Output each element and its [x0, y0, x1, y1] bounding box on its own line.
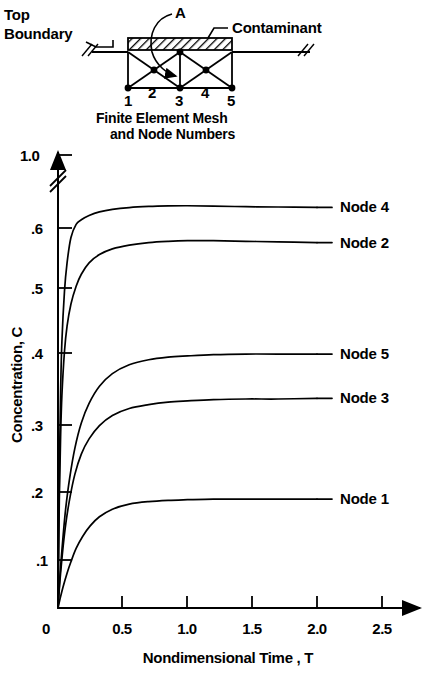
y-axis-title: Concentration, C [8, 327, 25, 444]
x-axis-title: Nondimensional Time , T [143, 649, 313, 666]
data-curves [58, 206, 332, 608]
series-label-node-5: Node 5 [340, 345, 389, 362]
series-label-node-3: Node 3 [340, 389, 389, 406]
y-ticklabel-0.5: .5 [31, 280, 43, 297]
plot-area: 1.0 .6 .5 .4 .3 .2 .1 0 0.5 1.0 1.5 2. [8, 147, 420, 666]
mesh-node-number-4: 4 [201, 84, 210, 101]
contaminant-bar [128, 38, 232, 50]
y-ticklabel-0.4: .4 [31, 345, 44, 362]
series-label-node-1: Node 1 [340, 490, 389, 507]
x-axis-ticks [122, 596, 382, 608]
right-break-symbol [298, 44, 314, 56]
curve-node-3 [58, 398, 317, 608]
x-ticklabel-2.5: 2.5 [372, 620, 392, 637]
mesh-node-number-1: 1 [124, 92, 132, 109]
curve-node-5 [58, 354, 317, 608]
top-boundary-label-line2: Boundary [4, 25, 73, 42]
mesh-node-5-dot [229, 85, 236, 92]
series-label-node-4: Node 4 [340, 198, 390, 215]
curve-node-4 [58, 206, 317, 608]
x-ticklabel-1.0: 1.0 [177, 620, 197, 637]
y-ticklabel-0.2: .2 [31, 484, 43, 501]
inset-caption-line1: Finite Element Mesh [96, 110, 228, 126]
x-ticklabel-0.5: 0.5 [112, 620, 132, 637]
x-axis-ticklabels: 0 0.5 1.0 1.5 2.0 2.5 [42, 620, 392, 637]
inset-mesh-diagram: Top Boundary Contaminant [4, 4, 322, 142]
x-ticklabel-0: 0 [42, 620, 50, 637]
figure-svg: Top Boundary Contaminant [0, 0, 438, 678]
figure-root: Top Boundary Contaminant [0, 0, 438, 678]
top-boundary-label-line1: Top [4, 6, 30, 23]
series-label-node-2: Node 2 [340, 234, 389, 251]
mesh-node-2-dot [151, 67, 158, 74]
y-ticklabel-1.0: 1.0 [20, 147, 40, 164]
mesh-node-number-3: 3 [175, 92, 183, 109]
left-break-symbol [82, 44, 98, 56]
inset-caption-line2: and Node Numbers [110, 126, 236, 142]
mesh-elements [128, 52, 232, 88]
mesh-node-number-2: 2 [148, 84, 156, 101]
mesh-node-4-dot [203, 67, 210, 74]
mesh-node-top-dot [177, 49, 184, 56]
curve-node-2 [58, 241, 317, 608]
y-ticklabel-0.6: .6 [31, 220, 43, 237]
y-ticklabel-0.3: .3 [31, 417, 43, 434]
contaminant-label: Contaminant [232, 19, 322, 36]
mesh-node-3-dot [177, 85, 184, 92]
contaminant-leader [208, 28, 228, 38]
series-labels: Node 4Node 2Node 5Node 3Node 1 [340, 198, 390, 507]
x-ticklabel-2.0: 2.0 [307, 620, 327, 637]
curve-node-1 [58, 499, 317, 608]
x-ticklabel-1.5: 1.5 [242, 620, 262, 637]
y-ticklabel-0.1: .1 [36, 552, 48, 569]
mesh-node-1-dot [125, 85, 132, 92]
element-a-label: A [175, 4, 186, 21]
mesh-node-number-5: 5 [227, 92, 235, 109]
